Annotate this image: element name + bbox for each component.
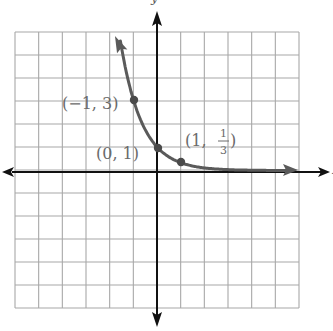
svg-text:1: 1 — [220, 127, 227, 140]
label-point-neg1-3: (−1, 3) — [62, 94, 118, 113]
label-point-0-1: (0, 1) — [96, 144, 139, 163]
x-axis — [2, 167, 330, 177]
exponential-graph: y . (−1, 3) (0, 1) (1, 1 3 ) — [0, 0, 333, 331]
svg-text:): ) — [230, 131, 236, 150]
y-axis-label: y — [150, 0, 158, 5]
y-axis — [152, 11, 162, 327]
svg-text:3: 3 — [220, 144, 227, 157]
point-0-1 — [154, 144, 162, 152]
svg-text:(1,: (1, — [185, 131, 207, 150]
label-point-1-third: (1, 1 3 ) — [185, 127, 236, 157]
point-1-third — [177, 158, 185, 166]
point-neg1-3 — [130, 96, 138, 104]
curve-upper-arrow-icon — [111, 33, 127, 53]
